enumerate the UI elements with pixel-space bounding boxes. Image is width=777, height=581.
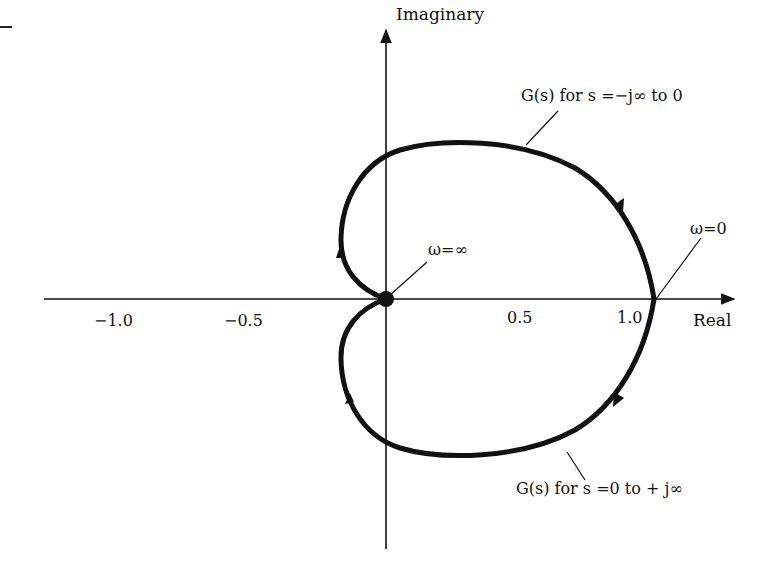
y-axis-label: Imaginary [396,4,484,24]
lower-branch-label: G(s) for s =0 to + j∞ [516,479,683,498]
arrow-lower-right-icon [613,392,624,407]
leader-lower-branch [567,452,585,480]
lower-branch-curve [341,299,654,455]
leader-omega-inf [389,262,427,296]
x-axis-label: Real [693,310,731,330]
upper-branch-curve [341,143,654,299]
leader-upper-branch [526,111,558,145]
omega-infinity-label: ω=∞ [428,240,468,259]
x-tick-0-5: 0.5 [507,308,532,327]
omega-zero-label: ω=0 [690,219,727,238]
x-tick-1: 1.0 [617,308,642,327]
x-tick-neg-1: −1.0 [94,311,133,330]
leader-omega-zero [656,238,701,299]
upper-branch-label: G(s) for s =−j∞ to 0 [521,86,683,105]
x-tick-neg-0-5: −0.5 [224,311,263,330]
